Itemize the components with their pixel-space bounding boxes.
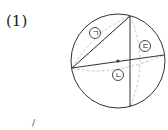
chord-left-to-top (72, 16, 130, 68)
svg-text:ㄱ: ㄱ (92, 29, 99, 38)
label-nieun: ㄴ (113, 70, 124, 81)
sphere-figure: ㄱ ㄴ ㄷ (0, 0, 168, 130)
label-digeut: ㄷ (140, 41, 151, 52)
stray-mark: / (32, 118, 35, 128)
center-dot (116, 59, 119, 62)
label-giyeok: ㄱ (90, 28, 101, 39)
svg-text:ㄴ: ㄴ (115, 71, 122, 80)
svg-text:ㄷ: ㄷ (142, 42, 149, 51)
